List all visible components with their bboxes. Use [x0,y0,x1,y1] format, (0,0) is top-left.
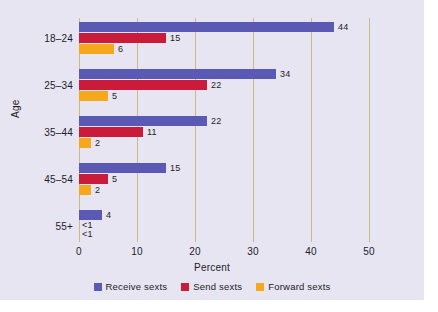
bar-forward-25-34 [79,91,108,101]
legend-swatch-forward-icon [256,283,264,291]
bar-value-receive-18-24: 44 [338,22,348,32]
y-tick-label-25-34: 25–34 [0,80,73,91]
bar-value-send-35-44: 11 [147,127,157,137]
x-axis-label: Percent [0,262,424,273]
plot-area: 44 15 6 18–24 34 22 5 25–34 22 11 [79,18,369,242]
bar-value-forward-35-44: 2 [95,138,100,148]
x-tick-30: 30 [241,246,265,257]
bar-receive-55-plus [79,210,102,220]
bar-value-send-18-24: 15 [170,33,180,43]
bar-send-45-54 [79,174,108,184]
bar-value-forward-55-plus: <1 [82,229,93,239]
bar-value-forward-25-34: 5 [112,91,117,101]
bar-value-forward-45-54: 2 [95,185,100,195]
bar-receive-45-54 [79,163,166,173]
bar-value-send-25-34: 22 [211,80,221,90]
y-tick-label-18-24: 18–24 [0,33,73,44]
gridline-20 [195,18,196,242]
legend-swatch-receive-icon [94,283,102,291]
figure: Age Percent 44 15 6 18–24 [0,0,438,312]
gridline-50 [369,18,370,242]
y-tick-label-45-54: 45–54 [0,174,73,185]
bar-value-receive-35-44: 22 [211,116,221,126]
bar-receive-25-34 [79,69,276,79]
x-tick-20: 20 [183,246,207,257]
bar-chart: Age Percent 44 15 6 18–24 [0,0,424,300]
x-tick-10: 10 [125,246,149,257]
y-tick-label-35-44: 35–44 [0,127,73,138]
bar-value-send-45-54: 5 [112,174,117,184]
bar-send-18-24 [79,33,166,43]
legend-label-forward: Forward sexts [268,281,330,292]
legend: Receive sexts Send sexts Forward sexts [0,281,424,292]
bar-value-receive-55-plus: 4 [106,210,111,220]
x-tick-50: 50 [357,246,381,257]
bar-forward-18-24 [79,44,114,54]
gridline-30 [253,18,254,242]
bar-receive-18-24 [79,22,334,32]
legend-item-receive-sexts: Receive sexts [94,281,168,292]
x-tick-0: 0 [67,246,91,257]
x-tick-40: 40 [299,246,323,257]
y-tick-label-55-plus: 55+ [0,221,73,232]
bar-receive-35-44 [79,116,207,126]
legend-label-receive: Receive sexts [106,281,168,292]
y-axis-label: Age [10,99,21,118]
legend-item-forward-sexts: Forward sexts [256,281,330,292]
bar-forward-35-44 [79,138,91,148]
legend-swatch-send-icon [181,283,189,291]
bar-send-35-44 [79,127,143,137]
bar-value-forward-18-24: 6 [118,44,123,54]
bar-forward-45-54 [79,185,91,195]
gridline-40 [311,18,312,242]
bar-value-receive-25-34: 34 [280,69,290,79]
legend-label-send: Send sexts [193,281,242,292]
bar-value-receive-45-54: 15 [170,163,180,173]
legend-item-send-sexts: Send sexts [181,281,242,292]
bar-send-25-34 [79,80,207,90]
